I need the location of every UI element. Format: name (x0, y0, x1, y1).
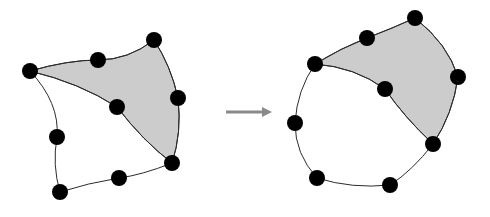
control-point-R-corner-east[interactable] (425, 136, 441, 152)
mesh-deformation-svg (0, 0, 490, 217)
control-point-L-corner-south[interactable] (52, 184, 68, 200)
control-point-R-edge-ne[interactable] (450, 69, 466, 85)
control-point-R-edge-nw[interactable] (359, 30, 375, 46)
control-point-R-edge-sw[interactable] (287, 115, 303, 131)
control-point-L-corner-north[interactable] (146, 32, 162, 48)
control-point-R-corner-north[interactable] (407, 10, 423, 26)
control-point-L-edge-ne[interactable] (170, 90, 186, 106)
transformation-arrow-head (262, 107, 272, 117)
diagram-canvas (0, 0, 490, 217)
control-point-L-edge-nw[interactable] (90, 52, 106, 68)
control-point-L-center[interactable] (109, 99, 125, 115)
control-point-R-corner-west[interactable] (307, 56, 323, 72)
right-patch-shaded-region (315, 18, 458, 144)
control-point-R-center[interactable] (377, 81, 393, 97)
transformation-arrow-group (226, 107, 272, 117)
control-point-R-corner-south[interactable] (309, 170, 325, 186)
right-patch-group (287, 10, 466, 193)
control-point-L-corner-east[interactable] (164, 155, 180, 171)
control-point-L-corner-west[interactable] (22, 63, 38, 79)
control-point-L-edge-se[interactable] (111, 170, 127, 186)
control-point-L-edge-sw[interactable] (49, 129, 65, 145)
left-patch-group (22, 32, 186, 200)
control-point-R-edge-se[interactable] (382, 177, 398, 193)
